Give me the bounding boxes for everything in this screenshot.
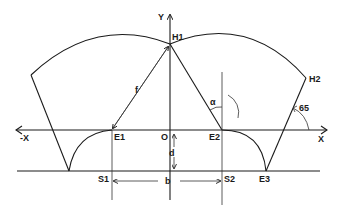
alpha-faint-circle [228, 95, 239, 118]
y-axis-label: Y [158, 12, 164, 22]
dimension-d-label: d [169, 148, 175, 158]
origin-label: O [161, 132, 168, 142]
point-h2-label: H2 [309, 74, 321, 84]
neg-x-axis-label: -X [20, 133, 29, 143]
e3-h2-line [266, 78, 306, 171]
angle-alpha-label: α [210, 97, 216, 107]
diagram-svg: Y H1 H2 -X X E1 O E2 S1 S2 E3 f d b α 65 [0, 0, 337, 216]
angle-65-label: 65 [299, 103, 309, 113]
point-e3-label: E3 [259, 174, 270, 184]
point-h1-label: H1 [172, 32, 184, 42]
dimension-b-label: b [165, 176, 171, 186]
point-e1-label: E1 [114, 132, 125, 142]
left-edge [31, 75, 69, 171]
x-axis-label: X [318, 134, 324, 144]
right-arc [170, 34, 306, 78]
left-fillet [69, 130, 112, 171]
left-arc [31, 35, 170, 75]
h1-e2-line [170, 44, 222, 130]
point-e2-label: E2 [209, 132, 220, 142]
alpha-arc [210, 107, 222, 110]
point-s1-label: S1 [98, 174, 109, 184]
right-fillet [222, 130, 266, 171]
diagram-canvas: Y H1 H2 -X X E1 O E2 S1 S2 E3 f d b α 65 [0, 0, 337, 216]
point-s2-label: S2 [224, 174, 235, 184]
f-arrow-back [113, 47, 168, 128]
